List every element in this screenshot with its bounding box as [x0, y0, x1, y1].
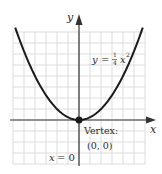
vertex-point — [76, 117, 83, 124]
equation-exponent: 2 — [126, 51, 130, 58]
equation-fraction-numerator: 1 — [113, 51, 117, 58]
equation-label: y = 1 4 x 2 — [91, 51, 130, 66]
x-axis-label: x — [150, 123, 157, 136]
symmetry-x: x — [49, 152, 55, 163]
symmetry-rest: = 0 — [57, 152, 75, 163]
y-axis-label: y — [66, 11, 74, 24]
y-axis-arrow-icon — [76, 14, 83, 25]
vertex-coordinates: (0, 0) — [87, 140, 113, 151]
equation-fraction-denominator: 4 — [113, 59, 117, 66]
equation-equals: = — [101, 54, 109, 65]
vertex-label: Vertex: — [83, 125, 118, 136]
parabola-graph: y x y = 1 4 x 2 Vertex: (0, 0) x = 0 — [0, 0, 162, 174]
equation-y: y — [91, 54, 98, 65]
symmetry-axis-label: x = 0 — [49, 152, 75, 163]
